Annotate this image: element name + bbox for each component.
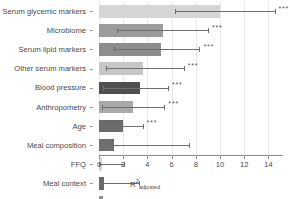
significance-marker: *** [172, 80, 183, 89]
y-axis-tick [90, 126, 94, 127]
significance-marker: *** [147, 118, 158, 127]
error-bar-cap-low [114, 47, 115, 52]
category-label-serum-lipid-markers: Serum lipid markers [18, 40, 86, 59]
bar-row [99, 193, 283, 199]
x-tick-4 [147, 155, 148, 159]
category-label-genetics: Genetics [56, 193, 86, 199]
error-bar-line [99, 145, 189, 146]
category-label-anthropometry: Anthropometry [36, 98, 86, 117]
y-axis-tick [90, 69, 94, 70]
significance-marker: *** [168, 99, 179, 108]
error-bar-cap-low [175, 9, 176, 14]
error-bar-cap-high [143, 124, 144, 129]
error-bar-cap-low [102, 105, 103, 110]
significance-marker: *** [203, 42, 214, 51]
x-tick-label-2: 2 [121, 160, 125, 169]
y-axis-tick [90, 30, 94, 31]
chart-figure: Serum glycemic markersMicrobiomeSerum li… [0, 0, 290, 199]
error-bar-line [99, 126, 143, 127]
error-bar-line [106, 68, 183, 69]
x-tick-label-8: 8 [194, 160, 198, 169]
bar-row: *** [99, 59, 283, 78]
error-bar-cap-high [275, 9, 276, 14]
x-tick-label-4: 4 [145, 160, 149, 169]
y-axis-tick [90, 49, 94, 50]
x-tick-label-0: 0 [97, 160, 101, 169]
x-tick-14 [268, 155, 269, 159]
bar-row: *** [99, 21, 283, 40]
error-bar-cap-high [189, 143, 190, 148]
bar-row: *** [99, 117, 283, 136]
y-axis-tick [90, 145, 94, 146]
error-bar-line [102, 107, 164, 108]
category-label-other-serum-markers: Other serum markers [14, 59, 86, 78]
bar-row: *** [99, 78, 283, 97]
x-tick-8 [196, 155, 197, 159]
error-bar-cap-high [164, 105, 165, 110]
error-bar-line [114, 49, 200, 50]
category-label-microbiome: Microbiome [47, 21, 86, 40]
y-axis-tick [90, 107, 94, 108]
y-axis-tick [90, 88, 94, 89]
x-tick-10 [220, 155, 221, 159]
x-tick-label-6: 6 [170, 160, 174, 169]
category-label-serum-glycemic-markers: Serum glycemic markers [2, 2, 86, 21]
error-bar-cap-high [208, 28, 209, 33]
category-label-meal-composition: Meal composition [27, 136, 86, 155]
y-axis-tick [90, 164, 94, 165]
significance-marker: *** [212, 23, 223, 32]
x-tick-label-14: 14 [264, 160, 272, 169]
error-bar-cap-high [184, 66, 185, 71]
bar-row: *** [99, 40, 283, 59]
x-tick-12 [244, 155, 245, 159]
x-tick-6 [172, 155, 173, 159]
x-tick-2 [123, 155, 124, 159]
bar-row: *** [99, 98, 283, 117]
significance-marker: *** [279, 4, 290, 13]
error-bar-cap-low [103, 86, 104, 91]
x-tick-0 [99, 155, 100, 159]
significance-marker: *** [188, 61, 199, 70]
error-bar-line [117, 30, 208, 31]
bar-genetics [99, 196, 103, 199]
x-axis-title: R2adjusted [0, 178, 290, 190]
error-bar-line [103, 88, 168, 89]
bar-row [99, 136, 283, 155]
x-tick-label-10: 10 [216, 160, 224, 169]
error-bar-cap-low [117, 28, 118, 33]
y-axis-tick [90, 11, 94, 12]
error-bar-cap-low [99, 143, 100, 148]
error-bar-cap-high [168, 86, 169, 91]
error-bar-cap-high [199, 47, 200, 52]
category-label-age: Age [72, 117, 86, 136]
bar-row [99, 155, 283, 174]
x-axis-line [99, 155, 283, 156]
x-tick-label-12: 12 [240, 160, 248, 169]
category-label-blood-pressure: Blood pressure [35, 78, 86, 97]
category-label-column: Serum glycemic markersMicrobiomeSerum li… [0, 2, 93, 155]
error-bar-cap-low [106, 66, 107, 71]
x-axis-title-subscript: adjusted [139, 184, 160, 190]
category-label-ffq: FFQ [71, 155, 86, 174]
bar-row: *** [99, 2, 283, 21]
error-bar-line [175, 11, 274, 12]
error-bar-cap-low [99, 124, 100, 129]
plot-area: ********************* [99, 2, 283, 155]
